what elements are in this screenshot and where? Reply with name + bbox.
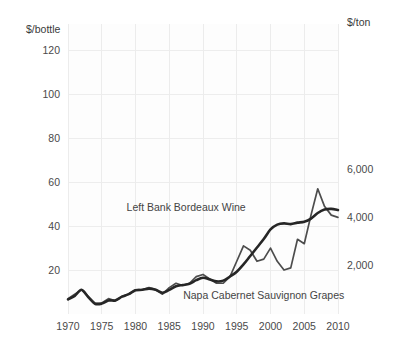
x-tick-label: 1995 [225,320,249,332]
x-tick-label: 1990 [191,320,215,332]
left-axis-tick-labels: 20406080100120 [42,44,60,276]
x-tick-label: 2010 [326,320,350,332]
left-tick-label: 100 [42,88,60,100]
x-tick-label: 2005 [293,320,317,332]
right-tick-label: 6,000 [347,163,373,175]
annotation-napa-grapes: Napa Cabernet Sauvignon Grapes [183,289,344,301]
left-tick-label: 80 [48,132,60,144]
right-axis-title: $/ton [347,16,371,28]
x-tick-label: 2000 [259,320,283,332]
x-axis-tick-labels: 197019751980198519901995200020052010 [56,320,350,332]
right-axis-tick-labels: 2,0004,0006,000 [347,163,373,272]
left-tick-label: 60 [48,176,60,188]
left-tick-label: 120 [42,44,60,56]
x-tick-label: 1975 [90,320,114,332]
x-tick-label: 1980 [124,320,148,332]
wine-grape-price-line-chart: 20406080100120 2,0004,0006,000 197019751… [0,0,394,348]
annotation-bordeaux-wine: Left Bank Bordeaux Wine [127,201,246,213]
right-tick-label: 4,000 [347,211,373,223]
x-tick-label: 1970 [56,320,80,332]
chart-container: 20406080100120 2,0004,0006,000 197019751… [0,0,394,348]
left-tick-label: 40 [48,220,60,232]
x-tick-label: 1985 [158,320,182,332]
left-axis-title: $/bottle [26,23,61,35]
left-tick-label: 20 [48,264,60,276]
right-tick-label: 2,000 [347,259,373,271]
